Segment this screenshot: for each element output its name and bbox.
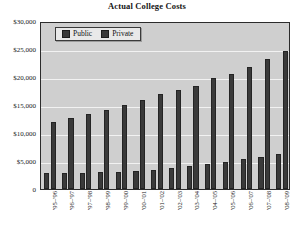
chart-title: Actual College Costs bbox=[0, 1, 294, 11]
bar-group bbox=[220, 23, 238, 189]
chart-legend: Public Private bbox=[55, 27, 141, 41]
x-axis-labels: '95–'96'96–'97'97–'98'98–'99'99–'00'00–'… bbox=[40, 191, 290, 226]
bar-private bbox=[104, 110, 109, 189]
bar-private bbox=[122, 105, 127, 189]
y-axis-tick-label: $15,000 bbox=[13, 103, 36, 110]
y-axis-tick-label: $10,000 bbox=[13, 131, 36, 138]
college-costs-chart: Actual College Costs 0$5,000$10,000$15,0… bbox=[0, 0, 294, 226]
bar-private bbox=[229, 74, 234, 189]
bar-private bbox=[265, 59, 270, 189]
bar-public bbox=[133, 171, 138, 189]
legend-label-public: Public bbox=[73, 30, 92, 38]
legend-item-private: Private bbox=[101, 30, 133, 38]
x-axis-tick-label: '02–'03 bbox=[177, 191, 184, 210]
bar-public bbox=[62, 173, 67, 189]
bar-private bbox=[193, 86, 198, 189]
bar-private bbox=[283, 51, 288, 189]
y-axis-labels: 0$5,000$10,000$15,000$20,000$25,000$30,0… bbox=[0, 22, 38, 190]
x-axis-tick-label: '03–'04 bbox=[194, 191, 201, 210]
bar-group bbox=[95, 23, 113, 189]
bar-group bbox=[77, 23, 95, 189]
legend-label-private: Private bbox=[112, 30, 133, 38]
bar-private bbox=[176, 90, 181, 189]
bar-private bbox=[247, 67, 252, 189]
plot-area bbox=[40, 22, 290, 190]
x-axis-tick-label: '00–'01 bbox=[141, 191, 148, 210]
bar-group bbox=[166, 23, 184, 189]
bar-private bbox=[86, 114, 91, 189]
bar-public bbox=[80, 173, 85, 189]
bar-public bbox=[241, 159, 246, 189]
legend-swatch-private-icon bbox=[101, 30, 109, 38]
bar-public bbox=[258, 157, 263, 189]
bar-private bbox=[211, 78, 216, 189]
bar-public bbox=[44, 173, 49, 189]
bar-public bbox=[187, 166, 192, 189]
y-axis-tick-label: $20,000 bbox=[13, 75, 36, 82]
bar-public bbox=[276, 154, 281, 189]
bar-public bbox=[98, 172, 103, 189]
x-axis-tick-label: '99–'00 bbox=[123, 191, 130, 210]
y-axis-tick-label: $30,000 bbox=[13, 19, 36, 26]
x-axis-tick-label: '95–'96 bbox=[52, 191, 59, 210]
bar-public bbox=[223, 162, 228, 189]
bar-public bbox=[151, 170, 156, 189]
bar-group bbox=[273, 23, 290, 189]
bar-private bbox=[68, 118, 73, 189]
x-axis-tick-label: '08–'09 bbox=[284, 191, 291, 210]
x-axis-tick-label: '04–'05 bbox=[212, 191, 219, 210]
bar-private bbox=[51, 122, 56, 190]
bar-group bbox=[237, 23, 255, 189]
bar-public bbox=[169, 168, 174, 189]
bar-group bbox=[202, 23, 220, 189]
bar-public bbox=[116, 172, 121, 189]
x-axis-tick-label: '98–'99 bbox=[105, 191, 112, 210]
bar-private bbox=[140, 100, 145, 189]
bar-group bbox=[130, 23, 148, 189]
bar-public bbox=[205, 164, 210, 189]
bar-private bbox=[158, 94, 163, 189]
bar-group bbox=[112, 23, 130, 189]
bar-group bbox=[41, 23, 59, 189]
y-axis-tick-label: $5,000 bbox=[17, 159, 36, 166]
x-axis-tick-label: '96–'97 bbox=[69, 191, 76, 210]
bar-group bbox=[59, 23, 77, 189]
y-axis-tick-label: $25,000 bbox=[13, 47, 36, 54]
x-axis-tick-label: '05–'06 bbox=[230, 191, 237, 210]
bar-group bbox=[255, 23, 273, 189]
bars-layer bbox=[41, 23, 289, 189]
x-axis-tick-label: '06–'07 bbox=[248, 191, 255, 210]
bar-group bbox=[148, 23, 166, 189]
legend-item-public: Public bbox=[62, 30, 92, 38]
x-axis-tick-label: '01–'02 bbox=[159, 191, 166, 210]
x-axis-tick-label: '97–'98 bbox=[87, 191, 94, 210]
bar-group bbox=[184, 23, 202, 189]
legend-swatch-public-icon bbox=[62, 30, 70, 38]
y-axis-tick-label: 0 bbox=[33, 187, 37, 194]
x-axis-tick-label: '07–'08 bbox=[266, 191, 273, 210]
